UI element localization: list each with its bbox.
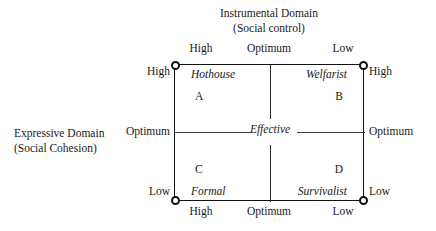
- quadrant-label-survivalist: Survivalist: [298, 185, 347, 197]
- quadrant-letter-a: A: [195, 90, 203, 102]
- right-axis-tick-low: Low: [369, 185, 390, 197]
- quadrant-letter-b: B: [335, 90, 343, 102]
- bullseye-marker-icon-top-left: [171, 61, 180, 70]
- bottom-axis-tick-high: High: [166, 205, 236, 217]
- bullseye-marker-icon-bottom-left: [171, 196, 180, 205]
- bullseye-marker-icon-top-right: [359, 61, 368, 70]
- center-label-effective: Effective: [175, 123, 365, 135]
- quadrant-letter-c: C: [195, 163, 203, 175]
- top-axis-tick-low: Low: [308, 42, 378, 54]
- instrumental-domain-axis-title: Instrumental Domain (Social control): [174, 6, 364, 35]
- top-axis-tick-optimum: Optimum: [234, 42, 304, 54]
- quadrant-letter-d: D: [335, 163, 343, 175]
- left-axis-tick-high: High: [104, 65, 170, 77]
- instrumental-domain-title-line2: (Social control): [174, 21, 364, 36]
- bullseye-marker-icon-bottom-right: [359, 196, 368, 205]
- quadrant-matrix-frame: Effective Hothouse A Welfarist B Formal …: [174, 64, 364, 201]
- expressive-domain-title-line2: (Social Cohesion): [14, 141, 150, 156]
- right-axis-tick-optimum: Optimum: [369, 125, 413, 137]
- quadrant-label-formal: Formal: [191, 185, 226, 197]
- right-axis-tick-high: High: [369, 65, 392, 77]
- diagram-canvas: Instrumental Domain (Social control) Exp…: [0, 0, 436, 231]
- vertical-divider-upper: [270, 65, 271, 119]
- instrumental-domain-title-line1: Instrumental Domain: [174, 6, 364, 21]
- bottom-axis-tick-optimum: Optimum: [234, 205, 304, 217]
- quadrant-label-welfarist: Welfarist: [306, 68, 347, 80]
- vertical-divider-lower: [270, 145, 271, 202]
- quadrant-label-hothouse: Hothouse: [191, 68, 235, 80]
- top-axis-tick-high: High: [166, 42, 236, 54]
- bottom-axis-tick-low: Low: [308, 205, 378, 217]
- left-axis-tick-optimum: Optimum: [104, 125, 170, 137]
- left-axis-tick-low: Low: [104, 185, 170, 197]
